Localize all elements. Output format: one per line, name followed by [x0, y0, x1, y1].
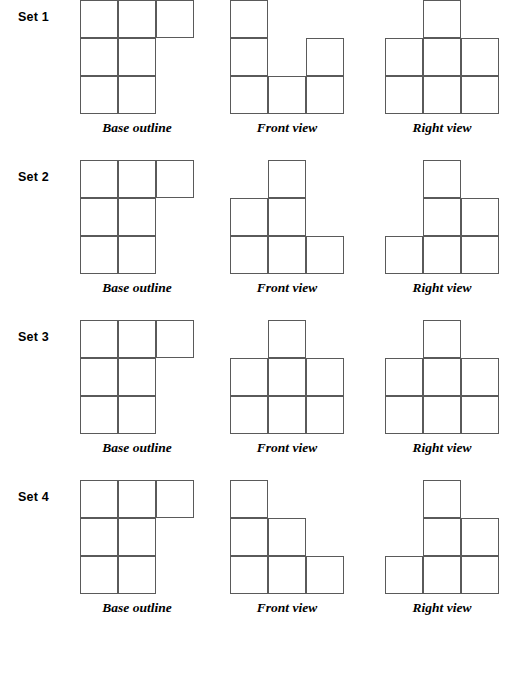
grid-cell[interactable] [80, 518, 118, 556]
grid-cell[interactable] [423, 0, 461, 38]
grid-cell[interactable] [423, 396, 461, 434]
grid-cell[interactable] [268, 76, 306, 114]
grid-cell[interactable] [461, 556, 499, 594]
grid-cell[interactable] [80, 358, 118, 396]
grid-cell[interactable] [230, 358, 268, 396]
grid-cell[interactable] [156, 0, 194, 38]
cube-grid-base [80, 320, 194, 434]
grid-cell[interactable] [230, 556, 268, 594]
grid-cell[interactable] [423, 358, 461, 396]
grid-cell[interactable] [385, 556, 423, 594]
grid-cell[interactable] [80, 236, 118, 274]
cube-grid-front [230, 320, 344, 434]
grid-cell[interactable] [423, 320, 461, 358]
grid-cell[interactable] [306, 358, 344, 396]
grid-cell[interactable] [461, 198, 499, 236]
grid-cell[interactable] [80, 38, 118, 76]
grid-cell[interactable] [118, 556, 156, 594]
grid-cell[interactable] [156, 480, 194, 518]
grid-cell[interactable] [423, 518, 461, 556]
grid-cell[interactable] [423, 480, 461, 518]
grid-cell[interactable] [118, 0, 156, 38]
cube-grid-base [80, 160, 194, 274]
grid-cell[interactable] [118, 38, 156, 76]
grid-cell[interactable] [423, 198, 461, 236]
grid-cell[interactable] [268, 198, 306, 236]
grid-cell[interactable] [156, 160, 194, 198]
grid-cell[interactable] [385, 396, 423, 434]
cube-grid-right [385, 320, 499, 434]
grid-cell[interactable] [268, 518, 306, 556]
figure-front: Front view [230, 320, 344, 434]
grid-cell[interactable] [423, 76, 461, 114]
grid-cell[interactable] [385, 236, 423, 274]
grid-cell[interactable] [423, 236, 461, 274]
grid-cell[interactable] [230, 236, 268, 274]
figure-caption: Right view [385, 120, 499, 136]
grid-cell[interactable] [306, 556, 344, 594]
grid-cell[interactable] [118, 198, 156, 236]
grid-cell[interactable] [230, 0, 268, 38]
grid-cell[interactable] [80, 396, 118, 434]
grid-cell[interactable] [230, 198, 268, 236]
grid-cell[interactable] [385, 358, 423, 396]
grid-cell[interactable] [118, 518, 156, 556]
grid-cell[interactable] [230, 38, 268, 76]
grid-cell[interactable] [80, 0, 118, 38]
grid-cell[interactable] [268, 396, 306, 434]
figure-caption: Right view [385, 440, 499, 456]
figure-base: Base outline [80, 0, 194, 114]
figure-front: Front view [230, 480, 344, 594]
cube-grid-front [230, 0, 344, 114]
set-row: Set 4Base outlineFront viewRight view [0, 480, 529, 640]
grid-cell[interactable] [230, 396, 268, 434]
figure-caption: Base outline [80, 280, 194, 296]
grid-cell[interactable] [306, 38, 344, 76]
grid-cell[interactable] [118, 358, 156, 396]
grid-cell[interactable] [461, 236, 499, 274]
grid-cell[interactable] [80, 76, 118, 114]
grid-cell[interactable] [118, 76, 156, 114]
grid-cell[interactable] [423, 38, 461, 76]
figure-caption: Right view [385, 280, 499, 296]
grid-cell[interactable] [385, 76, 423, 114]
grid-cell[interactable] [268, 556, 306, 594]
cube-grid-front [230, 160, 344, 274]
grid-cell[interactable] [306, 396, 344, 434]
grid-cell[interactable] [306, 76, 344, 114]
set-row: Set 2Base outlineFront viewRight view [0, 160, 529, 320]
grid-cell[interactable] [306, 236, 344, 274]
grid-cell[interactable] [118, 160, 156, 198]
grid-cell[interactable] [118, 396, 156, 434]
grid-cell[interactable] [230, 518, 268, 556]
grid-cell[interactable] [461, 518, 499, 556]
grid-cell[interactable] [461, 396, 499, 434]
figure-caption: Front view [230, 280, 344, 296]
grid-cell[interactable] [80, 198, 118, 236]
grid-cell[interactable] [461, 76, 499, 114]
grid-cell[interactable] [385, 38, 423, 76]
grid-cell[interactable] [268, 320, 306, 358]
grid-cell[interactable] [461, 38, 499, 76]
grid-cell[interactable] [268, 236, 306, 274]
grid-cell[interactable] [230, 76, 268, 114]
grid-cell[interactable] [80, 556, 118, 594]
grid-cell[interactable] [80, 160, 118, 198]
set-label: Set 1 [18, 10, 49, 24]
grid-cell[interactable] [230, 480, 268, 518]
cube-grid-base [80, 480, 194, 594]
cube-grid-base [80, 0, 194, 114]
grid-cell[interactable] [80, 480, 118, 518]
grid-cell[interactable] [268, 358, 306, 396]
grid-cell[interactable] [118, 480, 156, 518]
worksheet-page: Set 1Base outlineFront viewRight viewSet… [0, 0, 529, 676]
grid-cell[interactable] [423, 556, 461, 594]
grid-cell[interactable] [268, 160, 306, 198]
figure-front: Front view [230, 0, 344, 114]
grid-cell[interactable] [423, 160, 461, 198]
grid-cell[interactable] [118, 236, 156, 274]
grid-cell[interactable] [80, 320, 118, 358]
grid-cell[interactable] [156, 320, 194, 358]
grid-cell[interactable] [461, 358, 499, 396]
grid-cell[interactable] [118, 320, 156, 358]
